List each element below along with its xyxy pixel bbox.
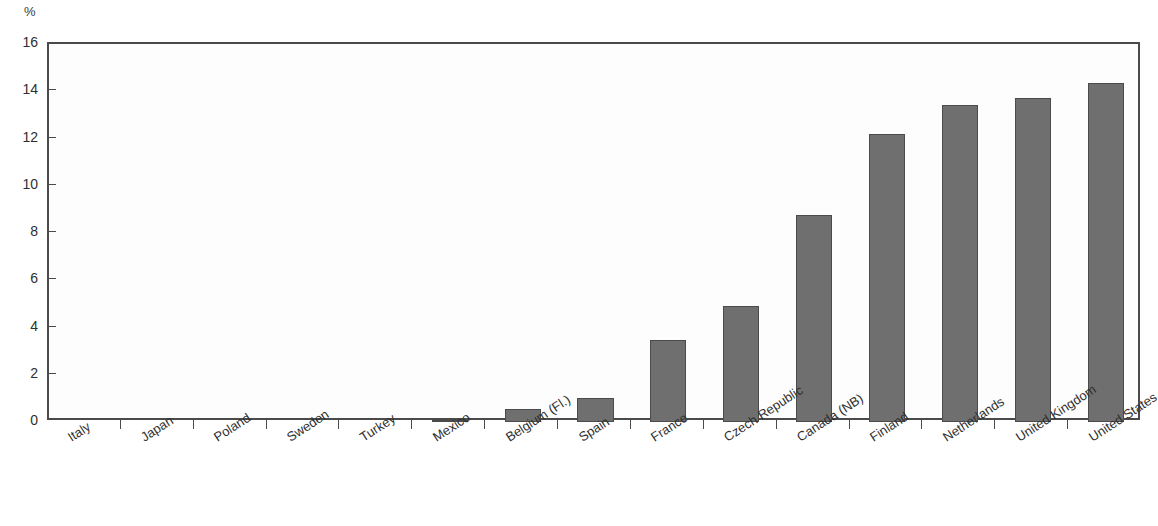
y-axis-tick-label: 10 <box>0 176 38 192</box>
x-axis-tick <box>776 420 777 429</box>
y-axis-tick <box>47 231 56 232</box>
x-axis-tick <box>1067 420 1068 429</box>
y-axis-tick <box>47 373 56 374</box>
x-axis-tick <box>849 420 850 429</box>
x-axis-tick <box>557 420 558 429</box>
x-axis-tick <box>338 420 339 429</box>
x-axis-tick <box>484 420 485 429</box>
y-axis-tick <box>47 278 56 279</box>
y-axis-tick-label: 6 <box>0 270 38 286</box>
x-axis-tick <box>193 420 194 429</box>
y-axis-tick-label: 12 <box>0 129 38 145</box>
y-axis-tick-label: 2 <box>0 365 38 381</box>
y-axis-tick <box>47 184 56 185</box>
y-axis-tick-label: 0 <box>0 412 38 428</box>
y-axis-tick-label: 4 <box>0 318 38 334</box>
x-axis-tick <box>921 420 922 429</box>
x-axis-tick <box>630 420 631 429</box>
bar <box>942 105 978 422</box>
y-axis-tick <box>47 89 56 90</box>
x-axis-tick <box>411 420 412 429</box>
bar <box>723 306 759 422</box>
bar <box>869 134 905 422</box>
bar <box>1015 98 1051 422</box>
bar-chart: % 0246810121416 ItalyJapanPolandSwedenTu… <box>0 0 1158 526</box>
bars-layer <box>49 44 1138 418</box>
x-axis-tick <box>120 420 121 429</box>
y-axis-tick-label: 8 <box>0 223 38 239</box>
x-axis-category-label: Italy <box>65 419 93 445</box>
y-axis-tick-label: 14 <box>0 81 38 97</box>
x-axis-tick <box>703 420 704 429</box>
chart-title <box>0 0 1158 2</box>
plot-area <box>47 42 1140 420</box>
x-axis-tick <box>994 420 995 429</box>
y-axis-tick <box>47 326 56 327</box>
x-axis-tick <box>266 420 267 429</box>
y-axis-tick-label: 16 <box>0 34 38 50</box>
bar <box>1088 83 1124 422</box>
y-axis-tick <box>47 137 56 138</box>
y-axis-unit-label: % <box>24 4 36 19</box>
